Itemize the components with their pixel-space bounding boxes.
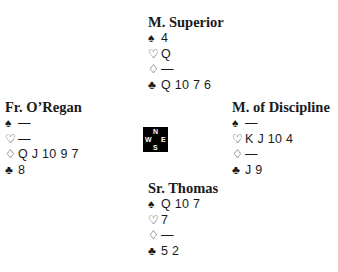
hand-east: M. of Discipline ♠— ♡K J 10 4 ♢— ♣J 9 [232,99,330,178]
club-icon: ♣ [148,244,161,260]
player-name-east: M. of Discipline [232,99,330,116]
cards-clubs: 8 [18,163,25,179]
suit-row-clubs: ♣Q 10 7 6 [148,78,224,94]
suit-row-clubs: ♣J 9 [232,163,330,179]
suit-row-spades: ♠— [232,116,330,132]
cards-clubs: J 9 [245,163,263,179]
compass-box: N W E S [143,127,168,152]
cards-spades: Q 10 7 [161,197,200,213]
cards-spades: 4 [161,31,168,47]
heart-icon: ♡ [148,47,161,63]
suit-row-hearts: ♡Q [148,47,224,63]
suit-row-clubs: ♣8 [5,163,82,179]
cards-clubs: 5 2 [161,244,179,260]
cards-hearts: — [18,132,31,148]
player-name-west: Fr. O’Regan [5,99,82,116]
compass-west-label: W [145,136,152,143]
heart-icon: ♡ [5,132,18,148]
cards-hearts: Q [161,47,171,63]
cards-spades: — [18,116,31,132]
suit-row-hearts: ♡K J 10 4 [232,132,330,148]
cards-diamonds: — [161,62,174,78]
cards-diamonds: — [245,147,258,163]
diamond-icon: ♢ [5,147,18,163]
club-icon: ♣ [5,163,18,179]
player-name-south: Sr. Thomas [148,180,218,197]
suit-row-diamonds: ♢— [232,147,330,163]
spade-icon: ♠ [5,116,18,132]
cards-spades: — [245,116,258,132]
diamond-icon: ♢ [148,228,161,244]
heart-icon: ♡ [148,213,161,229]
suit-row-hearts: ♡— [5,132,82,148]
club-icon: ♣ [232,163,245,179]
spade-icon: ♠ [148,197,161,213]
suit-row-diamonds: ♢— [148,228,218,244]
cards-hearts: 7 [161,213,168,229]
heart-icon: ♡ [232,132,245,148]
player-name-north: M. Superior [148,14,224,31]
spade-icon: ♠ [148,31,161,47]
hand-south: Sr. Thomas ♠Q 10 7 ♡7 ♢— ♣5 2 [148,180,218,259]
cards-clubs: Q 10 7 6 [161,78,211,94]
suit-row-diamonds: ♢Q J 10 9 7 [5,147,82,163]
cards-diamonds: — [161,228,174,244]
cards-hearts: K J 10 4 [245,132,293,148]
compass-east-label: E [161,136,166,143]
suit-row-hearts: ♡7 [148,213,218,229]
suit-row-spades: ♠4 [148,31,224,47]
compass-south-label: S [153,144,158,151]
suit-row-diamonds: ♢— [148,62,224,78]
cards-diamonds: Q J 10 9 7 [18,147,79,163]
hand-north: M. Superior ♠4 ♡Q ♢— ♣Q 10 7 6 [148,14,224,93]
spade-icon: ♠ [232,116,245,132]
diamond-icon: ♢ [148,62,161,78]
club-icon: ♣ [148,78,161,94]
suit-row-spades: ♠— [5,116,82,132]
suit-row-clubs: ♣5 2 [148,244,218,260]
suit-row-spades: ♠Q 10 7 [148,197,218,213]
hand-west: Fr. O’Regan ♠— ♡— ♢Q J 10 9 7 ♣8 [5,99,82,178]
diamond-icon: ♢ [232,147,245,163]
compass-north-label: N [153,128,158,135]
